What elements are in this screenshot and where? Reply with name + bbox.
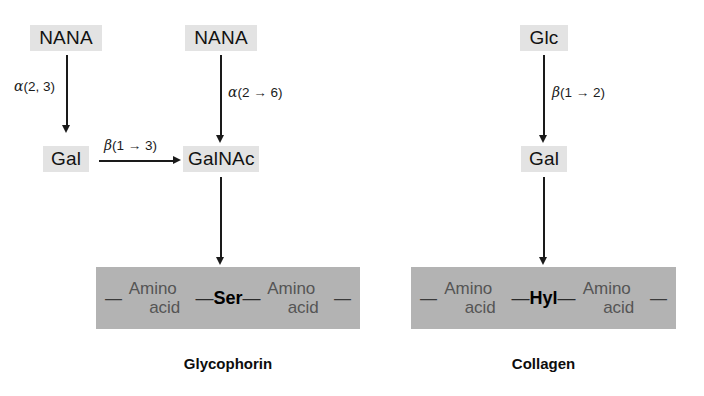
amino-acid-line2: acid <box>456 298 504 317</box>
greek-beta: β <box>104 137 112 153</box>
linkage-label-nana-to-gal: α(2, 3) <box>14 78 55 95</box>
linkage-label-nana-to-galnac: α(2 → 6) <box>228 84 282 101</box>
linkage-spec: (1 → 3) <box>112 138 157 153</box>
amino-acid-line1: Amino <box>444 279 492 298</box>
peptide-left-dash: — <box>420 290 437 307</box>
linkage-spec: (2, 3) <box>23 79 55 94</box>
amino-acid-right: Amino acid <box>273 279 321 317</box>
peptide-right-dash: — <box>334 290 351 307</box>
anchor-residue-hyl: —Hyl— <box>511 288 575 309</box>
anchor-left-tie: — <box>195 288 213 308</box>
peptide-backbone-collagen: — Amino acid —Hyl— Amino acid — <box>411 267 676 329</box>
residue-gal-left: Gal <box>43 146 89 172</box>
residue-nana-right: NANA <box>185 25 257 51</box>
amino-acid-left: Amino acid <box>450 279 498 317</box>
amino-acid-line1: Amino <box>129 279 177 298</box>
amino-acid-line1: Amino <box>583 279 631 298</box>
anchor-left-tie: — <box>511 288 529 308</box>
linkage-label-glc-to-gal: β(1 → 2) <box>552 84 605 101</box>
amino-acid-line1: Amino <box>267 279 315 298</box>
amino-acid-line2: acid <box>279 298 327 317</box>
panel-caption-glycophorin: Glycophorin <box>96 355 360 372</box>
amino-acid-line2: acid <box>141 298 189 317</box>
residue-galnac: GalNAc <box>183 146 259 172</box>
peptide-backbone-glycophorin: — Amino acid —Ser— Amino acid — <box>96 267 360 329</box>
anchor-residue-ser: —Ser— <box>195 288 260 309</box>
peptide-right-dash: — <box>650 290 667 307</box>
peptide-left-dash: — <box>105 290 122 307</box>
glycosylation-diagram: NANA α(2, 3) Gal β(1 → 3) NANA α(2 → 6) … <box>0 0 704 396</box>
linkage-spec: (1 → 2) <box>560 85 605 100</box>
amino-acid-left: Amino acid <box>135 279 183 317</box>
residue-gal-right: Gal <box>521 146 567 172</box>
residue-glc: Glc <box>520 25 568 51</box>
anchor-right-tie: — <box>243 288 261 308</box>
greek-beta: β <box>552 84 560 100</box>
linkage-label-gal-to-galnac: β(1 → 3) <box>104 137 157 154</box>
anchor-right-tie: — <box>557 288 575 308</box>
amino-acid-right: Amino acid <box>589 279 637 317</box>
anchor-label: Hyl <box>529 288 557 308</box>
linkage-spec: (2 → 6) <box>237 85 282 100</box>
amino-acid-line2: acid <box>595 298 643 317</box>
anchor-label: Ser <box>213 288 242 308</box>
panel-caption-collagen: Collagen <box>411 355 676 372</box>
residue-nana-left: NANA <box>30 25 102 51</box>
